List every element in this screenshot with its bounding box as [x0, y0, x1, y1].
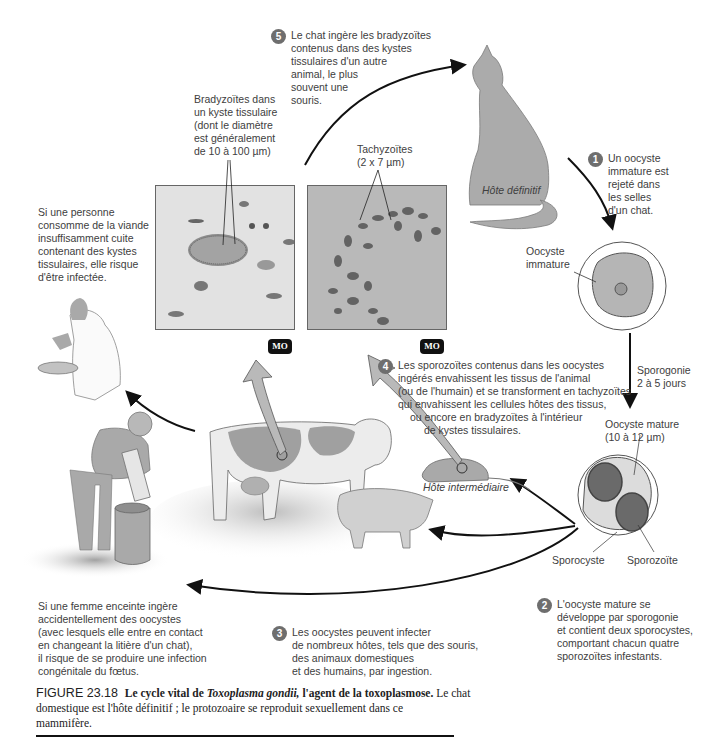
figure-caption: FIGURE 23.18 Le cycle vital de Toxoplasm… — [36, 686, 476, 731]
immature-oocyst-label: Oocyste immature — [526, 245, 570, 271]
undercooked-meat-note: Si une personne consomme de la viande in… — [38, 206, 149, 284]
step-2-badge: 2 — [537, 598, 552, 613]
step-1-badge: 1 — [588, 152, 603, 167]
bradyzoites-label: Bradyzoïtes dans un kyste tissulaire (do… — [194, 93, 277, 158]
sporogony-label: Sporogonie 2 à 5 jours — [637, 364, 691, 390]
step-1-text: Un oocyste immature est rejeté dans les … — [608, 152, 669, 217]
step-4-badge: 4 — [378, 359, 393, 374]
intermediate-host-label: Hôte intermédiaire — [423, 481, 509, 494]
step-2-text: L'oocyste mature se développe par sporog… — [557, 598, 693, 663]
sporozoite-label: Sporozoïte — [627, 554, 678, 567]
caption-rule — [36, 735, 454, 737]
figure-title-suffix: l'agent de la toxoplasmose. — [300, 687, 434, 699]
micrograph-badge-left: MO — [268, 339, 292, 354]
sporocyst-label: Sporocyste — [552, 554, 605, 567]
caption-line3: mammifère. — [36, 716, 476, 731]
figure-title-prefix: Le cycle vital de — [125, 687, 207, 699]
step-5-badge: 5 — [271, 29, 286, 44]
definitive-host-label: Hôte définitif — [482, 184, 540, 197]
step-3-text: Les oocystes peuvent infecter de nombreu… — [292, 626, 478, 678]
figure-number: FIGURE 23.18 — [36, 686, 118, 700]
micrograph-badge-right: MO — [420, 339, 444, 354]
step-3-badge: 3 — [272, 626, 287, 641]
figure-title-species: Toxoplasma gondii, — [207, 687, 300, 699]
caption-line2: domestique est l'hôte définitif ; le pro… — [36, 701, 476, 716]
step-4-text: Les sporozoïtes contenus dans les oocyst… — [398, 359, 631, 437]
pregnant-woman-note: Si une femme enceinte ingère accidentell… — [38, 600, 207, 678]
tachyzoites-label: Tachyzoïtes (2 x 7 µm) — [357, 143, 412, 169]
caption-line1-rest: Le chat — [433, 687, 470, 699]
step-5-text: Le chat ingère les bradyzoïtes contenus … — [291, 29, 431, 107]
